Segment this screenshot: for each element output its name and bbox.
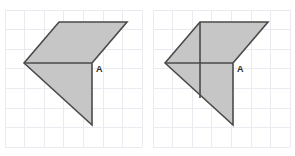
right-diagram-svg: A	[148, 0, 295, 156]
figure-canvas: A	[0, 0, 295, 156]
vertex-label-a: A	[237, 64, 244, 74]
vertex-label-a: A	[96, 64, 103, 74]
panel-right: A	[148, 0, 295, 156]
left-diagram-svg: A	[0, 0, 147, 156]
panel-left: A	[0, 0, 147, 156]
